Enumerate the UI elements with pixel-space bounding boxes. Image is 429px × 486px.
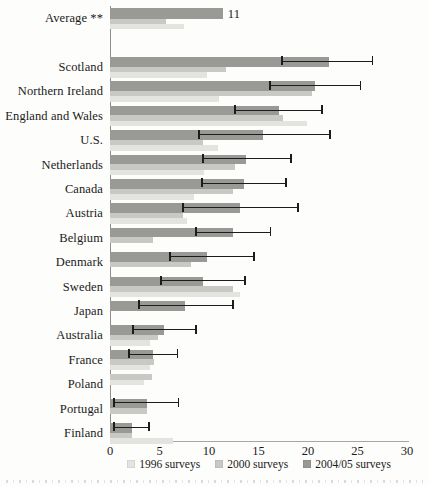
error-cap-right	[360, 81, 362, 90]
error-cap-left	[132, 325, 134, 334]
chart-row: Canada	[0, 179, 429, 200]
error-cap-left	[202, 154, 204, 163]
bar-group	[110, 350, 408, 371]
legend-swatch-200405-icon	[303, 460, 311, 468]
category-label: Sweden	[0, 277, 103, 298]
bar-group	[110, 228, 408, 249]
error-cap-left	[169, 252, 171, 261]
bar-group	[110, 203, 408, 224]
category-label: Canada	[0, 179, 103, 200]
error-bar	[234, 110, 323, 111]
error-cap-left	[128, 349, 130, 358]
legend-label: 2004/05 surveys	[315, 458, 391, 470]
chart-row: Poland	[0, 374, 429, 395]
chart-row: Denmark	[0, 252, 429, 273]
bar-1996	[110, 340, 150, 346]
chart-row: England and Wales	[0, 106, 429, 127]
bar-1996	[110, 194, 194, 200]
bar-group	[110, 277, 408, 298]
chart-row: Belgium	[0, 228, 429, 249]
error-cap-left	[138, 300, 140, 309]
category-label: Belgium	[0, 228, 103, 249]
bar-group: 11	[110, 8, 408, 29]
bar-group	[110, 252, 408, 273]
legend-item: 1996 surveys	[127, 458, 200, 470]
error-cap-right	[253, 252, 255, 261]
bar-1996	[110, 72, 207, 78]
error-cap-right	[372, 56, 374, 65]
error-cap-right	[232, 300, 234, 309]
category-label: France	[0, 350, 103, 371]
category-label: Portugal	[0, 399, 103, 420]
x-tick-label: 15	[252, 444, 265, 459]
legend-item: 2004/05 surveys	[303, 458, 391, 470]
chart-row: Australia	[0, 325, 429, 346]
x-tick-label: 10	[203, 444, 216, 459]
bar-group	[110, 325, 408, 346]
bar-1996	[110, 24, 184, 29]
bar-group	[110, 374, 408, 395]
chart-row: Sweden	[0, 277, 429, 298]
error-cap-right	[321, 105, 323, 114]
category-label: Scotland	[0, 57, 103, 78]
chart-row: Portugal	[0, 399, 429, 420]
error-cap-left	[201, 178, 203, 187]
chart-row: Austria	[0, 203, 429, 224]
error-bar	[132, 329, 197, 330]
bar-value-label: 11	[228, 7, 240, 22]
bar-1996	[110, 438, 173, 444]
bar-group	[110, 81, 408, 102]
error-bar	[169, 256, 254, 257]
bar-2000	[110, 408, 147, 414]
error-cap-right	[329, 130, 331, 139]
error-cap-left	[234, 105, 236, 114]
chart-row: Northern Ireland	[0, 81, 429, 102]
error-bar	[128, 354, 178, 355]
x-tick-label: 0	[107, 444, 113, 459]
bar-1996	[110, 218, 187, 224]
error-bar	[281, 61, 373, 62]
error-cap-right	[290, 154, 292, 163]
bar-group	[110, 301, 408, 322]
bar-1996	[110, 96, 219, 102]
error-bar	[138, 305, 234, 306]
x-tick-label: 5	[156, 444, 162, 459]
chart-row: France	[0, 350, 429, 371]
category-label: Finland	[0, 423, 103, 444]
legend-label: 1996 surveys	[139, 458, 200, 470]
bar-group	[110, 106, 408, 127]
bar-1996	[110, 292, 240, 298]
bar-1996	[110, 365, 150, 371]
victimisation-bar-chart-figure: Average **11ScotlandNorthern IrelandEngl…	[0, 0, 429, 486]
bar-group	[110, 155, 408, 176]
legend-label: 2000 surveys	[227, 458, 288, 470]
chart-row: Japan	[0, 301, 429, 322]
error-cap-left	[113, 422, 115, 431]
error-bar	[160, 280, 245, 281]
category-label: Netherlands	[0, 155, 103, 176]
category-label: England and Wales	[0, 106, 103, 127]
x-tick-label: 20	[302, 444, 315, 459]
error-cap-left	[269, 81, 271, 90]
chart-row: Netherlands	[0, 155, 429, 176]
error-cap-left	[113, 398, 115, 407]
error-bar	[201, 183, 287, 184]
error-cap-right	[195, 325, 197, 334]
error-cap-right	[177, 349, 179, 358]
category-label: Australia	[0, 325, 103, 346]
category-label: U.S.	[0, 130, 103, 151]
bar-2004-05	[110, 8, 223, 19]
cropped-caption-remnant	[6, 480, 423, 483]
error-bar	[202, 158, 292, 159]
chart-row: Finland	[0, 423, 429, 444]
bar-group	[110, 130, 408, 151]
category-label: Japan	[0, 301, 103, 322]
error-cap-left	[195, 227, 197, 236]
error-cap-left	[182, 203, 184, 212]
error-cap-right	[270, 227, 272, 236]
error-cap-right	[285, 178, 287, 187]
category-label: Austria	[0, 203, 103, 224]
category-label: Northern Ireland	[0, 81, 103, 102]
bar-1996	[110, 145, 218, 151]
error-cap-right	[244, 276, 246, 285]
